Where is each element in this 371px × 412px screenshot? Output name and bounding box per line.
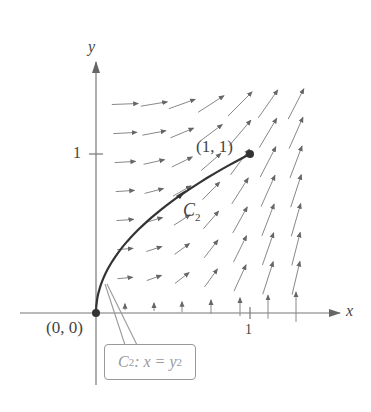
curve-c2 [96,154,250,313]
field-arrow-icon [115,161,136,162]
field-arrow-icon [144,160,165,165]
field-arrow-icon [202,182,219,199]
field-arrow-icon [261,176,275,207]
field-arrow-icon [117,219,134,220]
field-arrow-icon [172,157,192,167]
field-arrow-icon [142,131,165,135]
field-arrow-icon [291,175,302,207]
field-arrow-icon [204,240,218,258]
field-arrow-icon [262,233,273,265]
field-arrow-icon [258,90,277,118]
field-arrow-icon [141,102,167,106]
field-arrow-icon [234,265,246,291]
curve-equation-callout: C2: x = y2 [104,344,196,380]
field-arrow-icon [232,178,248,204]
field-arrow-icon [116,190,135,191]
field-arrow-icon [113,132,136,133]
field-arrow-icon [118,277,133,278]
y-axis-label: y [88,38,95,56]
vector-field-arrows [112,89,304,322]
field-arrow-icon [205,269,218,287]
field-arrow-icon [146,247,161,252]
field-arrow-icon [145,189,164,194]
field-arrow-icon [175,244,190,255]
curve-label: C2 [183,200,201,223]
field-arrow-icon [198,96,224,113]
field-arrow-icon [112,104,138,105]
field-arrow-icon [263,262,273,294]
field-arrow-icon [259,118,276,147]
field-arrow-icon [262,204,274,236]
field-arrow-icon [175,273,189,284]
point-end [246,150,254,158]
field-arrow-icon [292,233,300,266]
field-arrow-icon [147,275,162,280]
field-arrow-icon [233,207,247,233]
field-arrow-icon [234,236,247,262]
end-point-label: (1, 1) [196,137,233,157]
field-arrow-icon [228,92,252,116]
field-arrow-icon [260,147,276,177]
field-arrow-icon [203,211,218,229]
field-arrow-icon [288,89,304,119]
field-arrow-icon [290,146,302,178]
field-arrow-icon [289,117,303,148]
x-tick-label: 1 [245,322,252,338]
field-arrow-icon [169,99,195,108]
field-arrow-icon [291,204,300,237]
y-tick-label: 1 [73,144,81,162]
field-arrow-icon [171,128,194,138]
origin-label: (0, 0) [46,318,83,338]
field-arrow-icon [292,262,300,295]
x-axis-label: x [346,302,353,320]
point-origin [92,309,100,317]
